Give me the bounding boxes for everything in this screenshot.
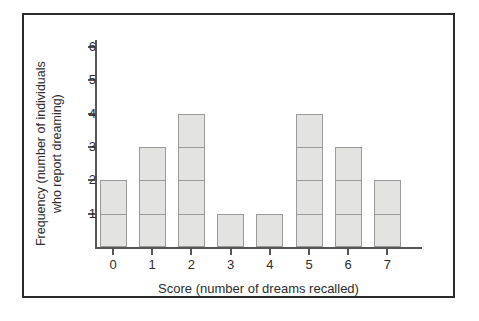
x-axis-tick-label: 2 [171, 258, 211, 271]
bar-segment-divider [297, 180, 322, 181]
y-axis-tick-label: 6 [76, 40, 96, 53]
bar-segment-divider [336, 214, 361, 215]
bar-segment-divider [179, 214, 204, 215]
x-axis-tick-mark [347, 248, 349, 255]
bar [139, 147, 166, 247]
y-axis-tick-label: 1 [76, 207, 96, 220]
x-axis-tick-mark [269, 248, 271, 255]
x-axis-tick-label: 4 [250, 258, 290, 271]
x-axis-tick-mark [190, 248, 192, 255]
x-axis-tick-mark [112, 248, 114, 255]
bar-segment-divider [336, 180, 361, 181]
x-axis-line [95, 247, 422, 249]
y-axis-tick-label: 2 [76, 173, 96, 186]
bar [374, 180, 401, 247]
x-axis-tick-mark [308, 248, 310, 255]
y-axis-title-line-2: who report dreaming) [50, 44, 66, 264]
bar-chart-plot-area: 123456 01234567 Score (number of dreams … [0, 0, 479, 321]
bar [256, 214, 283, 247]
bar [100, 180, 127, 247]
y-axis-tick-label: 5 [76, 73, 96, 86]
x-axis-tick-label: 0 [93, 258, 133, 271]
bar-segment-divider [101, 214, 126, 215]
bar-segment-divider [297, 147, 322, 148]
y-axis-tick-label: 3 [76, 140, 96, 153]
x-axis-tick-label: 6 [328, 258, 368, 271]
y-axis-title-line-1: Frequency (number of individuals [34, 44, 50, 264]
x-axis-tick-label: 3 [211, 258, 251, 271]
bar [178, 114, 205, 247]
bar [296, 114, 323, 247]
bar-segment-divider [375, 214, 400, 215]
x-axis-tick-mark [386, 248, 388, 255]
y-axis-title: Frequency (number of individuals who rep… [34, 44, 65, 264]
figure-container: 123456 01234567 Score (number of dreams … [0, 0, 479, 321]
x-axis-tick-label: 5 [289, 258, 329, 271]
bar-segment-divider [140, 214, 165, 215]
bar-segment-divider [179, 180, 204, 181]
x-axis-tick-mark [230, 248, 232, 255]
y-axis-tick-label: 4 [76, 107, 96, 120]
bar [335, 147, 362, 247]
bar-segment-divider [297, 214, 322, 215]
bar-segment-divider [179, 147, 204, 148]
bar [217, 214, 244, 247]
x-axis-tick-label: 7 [367, 258, 407, 271]
x-axis-tick-mark [151, 248, 153, 255]
bar-segment-divider [140, 180, 165, 181]
x-axis-tick-label: 1 [132, 258, 172, 271]
x-axis-title: Score (number of dreams recalled) [95, 281, 422, 296]
